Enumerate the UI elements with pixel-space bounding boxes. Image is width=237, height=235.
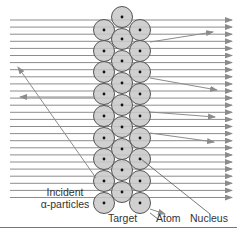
nucleus-dot-icon (121, 60, 124, 63)
atom (130, 84, 151, 105)
nucleus-dot-icon (103, 115, 106, 118)
nucleus-dot-icon (121, 148, 124, 151)
nucleus-dot-icon (139, 115, 142, 118)
scattering-diagram (0, 0, 237, 235)
atom-label: Atom (156, 212, 181, 224)
incident-label-line2: α-particles (38, 198, 92, 210)
nucleus-leader-line (141, 159, 210, 214)
atom (94, 171, 115, 192)
label-leader-lines (141, 159, 210, 219)
nucleus-dot-icon (121, 16, 124, 19)
atom (94, 128, 115, 149)
nucleus-dot-icon (139, 158, 142, 161)
atom (94, 84, 115, 105)
nucleus-dot-icon (139, 202, 142, 205)
nucleus-dot-icon (121, 169, 124, 172)
nucleus-dot-icon (139, 137, 142, 140)
nucleus-dot-icon (121, 126, 124, 129)
atom (112, 182, 133, 203)
atom (94, 106, 115, 127)
atom (130, 128, 151, 149)
nucleus-dot-icon (121, 82, 124, 85)
nucleus-dot-icon (103, 137, 106, 140)
nucleus-dot-icon (139, 71, 142, 74)
bottom-divider (0, 227, 237, 228)
atom (112, 7, 133, 28)
atom (94, 62, 115, 83)
atom (130, 149, 151, 170)
atom (130, 20, 151, 41)
deflected-path (150, 32, 213, 42)
nucleus-dot-icon (103, 180, 106, 183)
atom (112, 73, 133, 94)
atom (112, 117, 133, 138)
target-atoms (94, 7, 151, 214)
rutherford-scattering-figure: Incident α-particles Target Atom Nucleus (0, 0, 237, 235)
nucleus-dot-icon (121, 38, 124, 41)
nucleus-dot-icon (121, 191, 124, 194)
nucleus-dot-icon (121, 104, 124, 107)
incident-label-line1: Incident (38, 186, 92, 198)
atom (112, 95, 133, 116)
incident-alpha-particles-label: Incident α-particles (38, 186, 92, 210)
atom (130, 106, 151, 127)
nucleus-label: Nucleus (190, 212, 228, 224)
nucleus-dot-icon (103, 93, 106, 96)
atom (130, 193, 151, 214)
atom (112, 160, 133, 181)
nucleus-dot-icon (103, 29, 106, 32)
nucleus-dot-icon (139, 50, 142, 53)
nucleus-dot-icon (139, 180, 142, 183)
atom (130, 62, 151, 83)
atom (94, 193, 115, 214)
nucleus-dot-icon (103, 71, 106, 74)
target-label: Target (108, 212, 137, 224)
atom (130, 41, 151, 62)
nucleus-dot-icon (103, 158, 106, 161)
nucleus-dot-icon (139, 93, 142, 96)
nucleus-dot-icon (103, 202, 106, 205)
deflected-particle-paths (150, 32, 217, 214)
atom (130, 171, 151, 192)
nucleus-dot-icon (139, 29, 142, 32)
nucleus-dot-icon (103, 50, 106, 53)
